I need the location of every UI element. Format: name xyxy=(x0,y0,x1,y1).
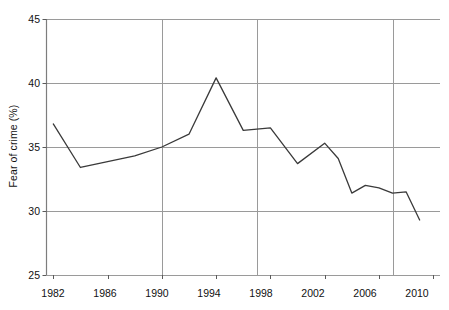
data-series xyxy=(53,78,419,220)
gridlines xyxy=(47,19,441,276)
line-chart: Fear of crime (%) 45 40 35 30 25 1982 19… xyxy=(0,0,449,310)
tick-marks xyxy=(43,20,434,280)
chart-canvas xyxy=(0,0,449,310)
